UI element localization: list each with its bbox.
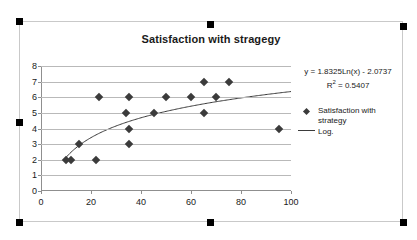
y-tick-mark [38,175,41,176]
chart-legend[interactable]: Satisfaction with strategy Log. [294,106,404,138]
x-tick-mark [141,191,142,194]
y-tick-mark [38,66,41,67]
x-tick-label: 20 [86,197,96,207]
y-tick-label: 4 [32,124,37,134]
gridline [41,66,291,67]
y-tick-label: 1 [32,170,37,180]
x-tick-label: 60 [186,197,196,207]
x-tick-label: 100 [283,197,298,207]
gridline [41,113,291,114]
y-tick-mark [38,160,41,161]
gridline [41,175,291,176]
y-tick-label: 3 [32,139,37,149]
y-tick-mark [38,113,41,114]
selection-handle-top-left[interactable] [16,18,23,25]
gridline [41,82,291,83]
x-tick-label: 80 [236,197,246,207]
x-tick-mark [91,191,92,194]
trendline-equation: y = 1.8325Ln(x) - 2.0737 [294,66,402,77]
y-tick-label: 2 [32,155,37,165]
y-tick-label: 8 [32,61,37,71]
y-tick-label: 6 [32,92,37,102]
selection-handle-top-middle[interactable] [207,21,214,28]
chart-title: Satisfaction with stragegy [20,33,402,45]
chart-object[interactable]: Satisfaction with stragegy 0123456780204… [19,21,403,222]
selection-handle-middle-left[interactable] [16,119,23,126]
legend-label-trendline: Log. [318,127,334,137]
legend-label-series: Satisfaction with strategy [318,106,404,126]
x-tick-mark [291,191,292,194]
selection-handle-top-right[interactable] [400,23,407,30]
r-squared-number: = 0.5407 [336,81,370,90]
trendline-equation-block: y = 1.8325Ln(x) - 2.0737 R2 = 0.5407 [294,66,402,91]
selection-handle-bottom-left[interactable] [16,219,23,226]
x-tick-mark [241,191,242,194]
r-squared-value: R2 = 0.5407 [294,77,402,91]
x-tick-mark [191,191,192,194]
gridline [41,160,291,161]
gridline [41,129,291,130]
y-tick-mark [38,144,41,145]
selection-handle-bottom-right[interactable] [400,219,407,226]
y-tick-label: 5 [32,108,37,118]
y-tick-mark [38,97,41,98]
x-tick-label: 40 [136,197,146,207]
y-tick-mark [38,129,41,130]
x-tick-label: 0 [38,197,43,207]
selection-handle-bottom-middle[interactable] [207,219,214,226]
y-tick-label: 0 [32,186,37,196]
legend-item-trendline[interactable]: Log. [294,127,404,137]
legend-line-icon [294,127,318,131]
legend-item-series[interactable]: Satisfaction with strategy [294,106,404,126]
y-tick-mark [38,82,41,83]
x-tick-mark [41,191,42,194]
plot-area[interactable]: 012345678020406080100 [41,66,291,191]
y-tick-label: 7 [32,77,37,87]
legend-diamond-icon [294,106,318,114]
